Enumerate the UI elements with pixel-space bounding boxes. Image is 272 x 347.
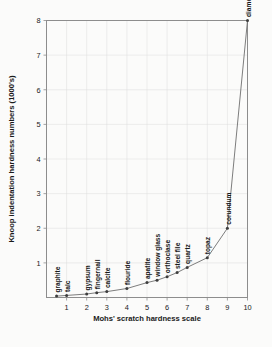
data-series-line: [57, 21, 248, 297]
data-point-label: orthoclase: [164, 240, 171, 274]
x-tick-label: 10: [243, 303, 251, 312]
data-point-marker: [186, 266, 189, 269]
x-tick-label: 7: [185, 303, 189, 312]
data-point-marker: [55, 295, 58, 298]
data-point-marker: [85, 293, 88, 296]
y-tick-label: 5: [36, 120, 40, 129]
data-point-label: talc: [64, 280, 71, 292]
data-point-marker: [176, 271, 179, 274]
data-point-marker: [125, 287, 128, 290]
y-axis-title: Knoop indentation hardness numbers (1000…: [7, 75, 16, 243]
chart-svg: 12345678 12345678910 graphitetalcgypsumf…: [0, 0, 272, 347]
data-point-label: window glass: [154, 233, 162, 277]
data-point-label: quartz: [184, 243, 192, 263]
data-point-label: apatite: [144, 258, 152, 280]
data-point-marker: [65, 294, 68, 297]
data-point-label: steel file: [174, 242, 181, 269]
knoop-mohs-hardness-chart: 12345678 12345678910 graphitetalcgypsumf…: [0, 0, 272, 347]
x-axis-title: Mohs' scratch hardness scale: [93, 314, 201, 323]
data-point-label: graphite: [54, 266, 62, 292]
data-point-marker: [95, 291, 98, 294]
data-point-label: diamond: [245, 0, 252, 17]
data-point-label: calcite: [104, 267, 111, 288]
x-tick-label: 8: [205, 303, 209, 312]
x-tick-label: 2: [85, 303, 89, 312]
y-tick-label: 7: [36, 51, 40, 60]
x-tick-label: 5: [145, 303, 149, 312]
data-point-label: fingernail: [94, 259, 102, 289]
x-tick-label: 4: [125, 303, 129, 312]
data-point-label: flouride: [124, 260, 131, 285]
data-point-labels: graphitetalcgypsumfingernailcalciteflour…: [54, 0, 252, 293]
data-point-marker: [246, 19, 249, 22]
data-point-marker: [226, 227, 229, 230]
data-point-label: topaz: [205, 236, 213, 254]
x-tick-label: 3: [105, 303, 109, 312]
y-tick-label: 4: [36, 155, 40, 164]
y-tick-label: 6: [36, 86, 40, 95]
data-point-marker: [105, 290, 108, 293]
data-point-label: gypsum: [84, 265, 92, 290]
x-tick-label: 6: [165, 303, 169, 312]
x-tick-label: 9: [225, 303, 229, 312]
y-tick-label: 3: [36, 189, 40, 198]
y-tick-label: 2: [36, 224, 40, 233]
data-point-markers: [55, 19, 249, 298]
data-point-label: corundum: [225, 192, 232, 224]
x-axis-ticks: 12345678910: [65, 298, 252, 312]
y-tick-label: 1: [36, 259, 40, 268]
x-tick-label: 1: [65, 303, 69, 312]
data-point-marker: [206, 256, 209, 259]
gridlines: [47, 21, 248, 298]
data-point-marker: [146, 281, 149, 284]
data-point-marker: [166, 275, 169, 278]
y-tick-label: 8: [36, 16, 40, 25]
data-point-marker: [156, 279, 159, 282]
y-axis-ticks: 12345678: [36, 16, 46, 267]
